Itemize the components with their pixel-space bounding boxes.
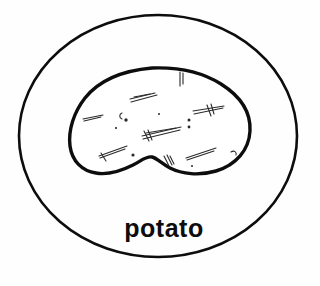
sketch-canvas: potato bbox=[0, 0, 320, 286]
potato-diagram: potato bbox=[0, 0, 320, 286]
potato-label: potato bbox=[124, 214, 203, 242]
dot-eye-4 bbox=[188, 126, 191, 129]
dot-eye-1 bbox=[124, 118, 127, 121]
dot-eye-5 bbox=[131, 153, 134, 156]
dot-eye-6 bbox=[191, 165, 193, 167]
dot-eye-3 bbox=[188, 119, 191, 122]
dot-eye-2 bbox=[115, 127, 117, 129]
dot-eye-7 bbox=[158, 113, 160, 115]
